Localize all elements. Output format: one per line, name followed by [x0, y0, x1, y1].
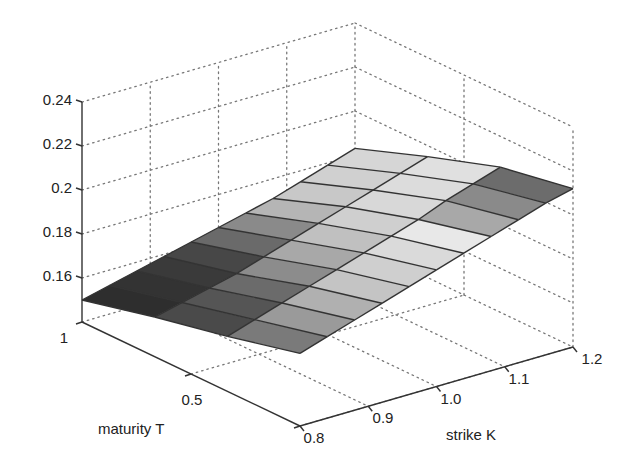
x-tick-label: 1.1 — [509, 370, 530, 387]
y-tick-label: 1 — [60, 329, 68, 346]
surface-mesh — [82, 148, 573, 353]
x-tick-label: 1.0 — [441, 390, 462, 407]
z-tick-label: 0.18 — [43, 223, 72, 240]
z-tick — [76, 100, 82, 102]
z-tick — [76, 276, 82, 278]
z-tick — [76, 188, 82, 190]
x-tick — [573, 347, 577, 352]
z-tick-label: 0.2 — [51, 179, 72, 196]
z-tick-label: 0.22 — [43, 135, 72, 152]
x-tick-label: 0.8 — [304, 429, 325, 446]
surface-plot: 0.24 0.22 0.2 0.18 0.16 1 0.5 0.8 0.9 1.… — [0, 0, 634, 473]
x-axis-label: strike K — [446, 426, 496, 443]
z-tick-label: 0.24 — [43, 91, 72, 108]
y-tick — [294, 426, 300, 428]
x-tick-label: 1.2 — [582, 350, 603, 367]
z-tick — [76, 144, 82, 146]
y-tick — [185, 374, 191, 376]
x-tick-label: 0.9 — [373, 409, 394, 426]
z-tick-label: 0.16 — [43, 267, 72, 284]
y-tick — [76, 322, 82, 324]
y-axis-label: maturity T — [98, 420, 164, 437]
y-tick-label: 0.5 — [182, 391, 203, 408]
z-tick — [76, 232, 82, 234]
